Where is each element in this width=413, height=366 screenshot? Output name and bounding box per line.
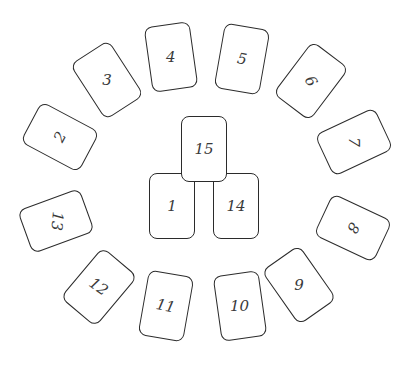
card-position-7: 7 [314,107,393,177]
card-number: 3 [102,73,112,88]
card-number: 11 [155,297,177,316]
card-position-13: 13 [17,188,95,254]
tarot-spread-diagram: 1 14 15 2 3 4 5 6 7 8 9 10 11 12 13 [0,0,413,366]
card-number: 1 [167,199,177,214]
card-position-14: 14 [213,173,259,239]
card-number: 4 [166,50,176,65]
card-position-15: 15 [181,116,227,182]
card-position-11: 11 [138,270,195,343]
card-position-3: 3 [70,40,145,120]
card-number: 14 [226,199,245,214]
card-number: 10 [230,299,249,314]
card-position-5: 5 [214,23,271,96]
card-position-4: 4 [144,21,199,93]
card-position-6: 6 [273,41,349,121]
card-position-8: 8 [313,193,392,263]
card-position-12: 12 [60,247,138,327]
card-number: 13 [48,211,65,231]
card-number: 8 [344,220,362,236]
card-number: 7 [346,137,361,147]
card-position-2: 2 [20,101,100,173]
card-position-10: 10 [213,270,268,342]
card-number: 6 [302,73,320,89]
card-number: 5 [236,51,248,67]
card-position-1: 1 [149,173,195,239]
card-number: 9 [294,278,304,293]
card-position-9: 9 [261,245,337,325]
card-number: 15 [194,142,213,157]
card-number: 12 [87,275,111,298]
card-number: 2 [51,129,69,144]
